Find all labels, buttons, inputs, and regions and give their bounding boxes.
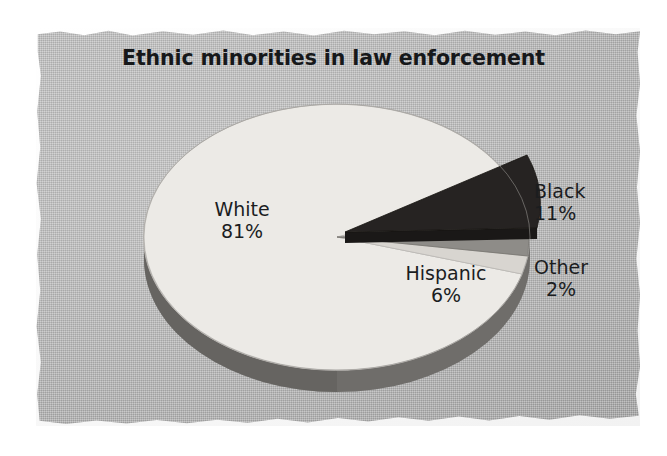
pie-label-black-name: Black: [534, 180, 630, 202]
pie-chart: [0, 0, 667, 456]
pie-label-white: White 81%: [196, 198, 288, 243]
pie-label-hispanic: Hispanic 6%: [392, 262, 500, 307]
page-root: Ethnic minorities in law enforcement: [0, 0, 667, 456]
pie-label-other-value: 2%: [534, 278, 630, 300]
pie-label-white-name: White: [196, 198, 288, 220]
pie-label-hispanic-value: 6%: [392, 284, 500, 306]
pie-label-white-value: 81%: [196, 220, 288, 242]
pie-label-hispanic-name: Hispanic: [392, 262, 500, 284]
pie-label-black-value: 11%: [534, 202, 630, 224]
pie-label-other: Other 2%: [534, 256, 630, 301]
pie-label-other-name: Other: [534, 256, 630, 278]
pie-label-black: Black 11%: [534, 180, 630, 225]
